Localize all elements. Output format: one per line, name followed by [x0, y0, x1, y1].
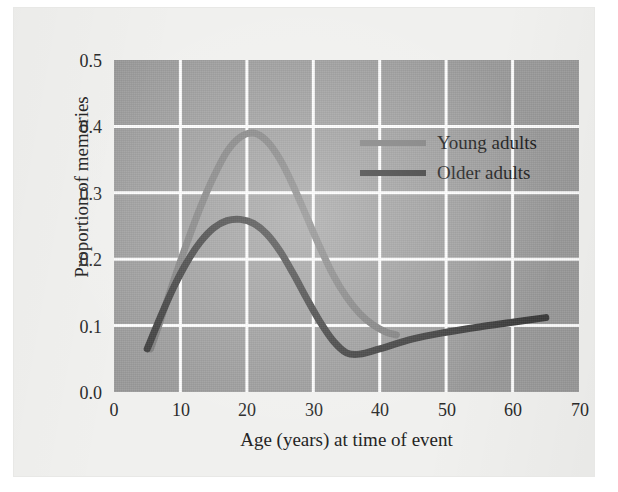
y-tick-label-0: 0.0 — [50, 384, 102, 402]
y-tick-label-4: 0.4 — [50, 118, 102, 136]
reminiscence-bump-figure: Proportion of memories Age (years) at ti… — [0, 0, 618, 492]
plot-area: Young adults Older adults — [114, 60, 579, 392]
x-tick-label-20: 20 — [213, 401, 281, 419]
legend-swatch-young-adults — [360, 140, 426, 146]
x-tick-label-10: 10 — [147, 401, 215, 419]
series-line-older-adults — [147, 219, 546, 354]
legend-label-young-adults: Young adults — [437, 132, 537, 154]
x-tick-label-70: 70 — [546, 401, 614, 419]
legend-item-older-adults: Older adults — [360, 158, 537, 188]
scanned-page-background: Proportion of memories Age (years) at ti… — [14, 8, 594, 476]
legend-label-older-adults: Older adults — [437, 162, 530, 184]
x-axis-label: Age (years) at time of event — [114, 429, 579, 451]
y-tick-label-1: 0.1 — [50, 318, 102, 336]
x-tick-label-50: 50 — [413, 401, 481, 419]
x-tick-label-60: 60 — [479, 401, 547, 419]
legend-swatch-older-adults — [360, 170, 426, 176]
legend-item-young-adults: Young adults — [360, 128, 537, 158]
chart-svg — [114, 60, 579, 392]
x-tick-label-40: 40 — [346, 401, 414, 419]
y-tick-label-2: 0.2 — [50, 251, 102, 269]
gridlines — [114, 60, 579, 392]
x-tick-label-30: 30 — [280, 401, 348, 419]
x-tick-label-0: 0 — [80, 401, 148, 419]
legend: Young adults Older adults — [360, 128, 537, 188]
y-tick-label-5: 0.5 — [50, 52, 102, 70]
y-tick-label-3: 0.3 — [50, 185, 102, 203]
